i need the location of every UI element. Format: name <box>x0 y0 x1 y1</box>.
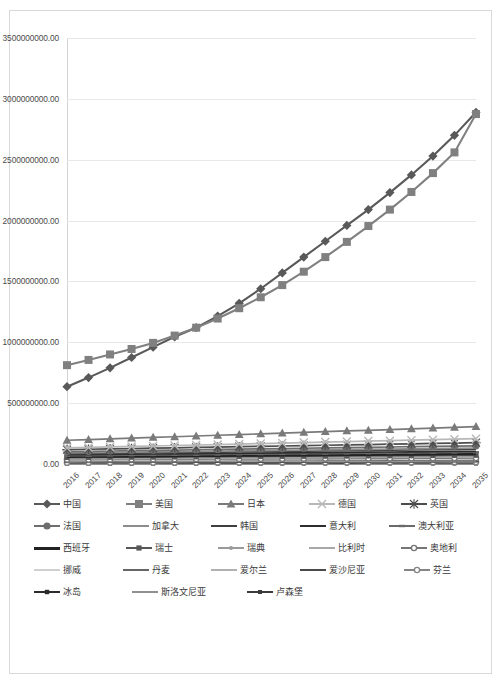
legend-swatch-icon <box>401 499 427 509</box>
data-point-marker <box>343 238 351 246</box>
legend-swatch-icon <box>401 543 427 553</box>
x-tick-label: 2026 <box>276 470 296 490</box>
legend-swatch-icon <box>218 499 244 509</box>
legend-swatch-icon <box>126 543 152 553</box>
data-point-marker <box>63 361 71 369</box>
legend-row: 法国加拿大韩国意大利澳大利亚 <box>10 515 493 537</box>
legend-swatch-icon <box>34 543 60 553</box>
data-point-marker <box>415 567 420 572</box>
data-point-marker <box>407 188 415 196</box>
legend-item-2[interactable]: 日本 <box>218 499 310 509</box>
y-tick-label: 2500000000.00 <box>3 155 59 165</box>
data-point-marker <box>192 324 200 332</box>
legend-item-7[interactable]: 韩国 <box>211 521 300 531</box>
legend-label: 法国 <box>63 522 81 531</box>
data-point-marker <box>105 363 114 372</box>
series-1 <box>63 110 480 369</box>
legend-item-3[interactable]: 德国 <box>309 499 401 509</box>
y-tick-label: 0.00 <box>43 459 59 469</box>
legend-item-22[interactable]: 卢森堡 <box>247 587 345 597</box>
series-layer <box>67 38 476 464</box>
data-point-marker <box>170 443 180 453</box>
legend-label: 芬兰 <box>433 566 451 575</box>
legend-item-15[interactable]: 挪威 <box>34 565 123 575</box>
data-point-marker <box>84 373 93 382</box>
legend-swatch-icon <box>247 587 273 597</box>
legend-item-19[interactable]: 芬兰 <box>404 565 493 575</box>
legend-item-10[interactable]: 西班牙 <box>34 543 126 553</box>
legend-item-13[interactable]: 比利时 <box>309 543 401 553</box>
legend-item-11[interactable]: 瑞士 <box>126 543 218 553</box>
y-tick-label: 1500000000.00 <box>3 276 59 286</box>
y-tick-label: 500000000.00 <box>7 398 59 408</box>
legend-item-12[interactable]: 瑞典 <box>218 543 310 553</box>
legend-item-9[interactable]: 澳大利亚 <box>389 521 493 531</box>
data-point-marker <box>43 522 50 529</box>
data-point-marker <box>105 444 115 454</box>
data-point-marker <box>321 253 329 261</box>
legend-item-1[interactable]: 美国 <box>126 499 218 509</box>
series-line <box>67 114 476 365</box>
legend-item-18[interactable]: 爱沙尼亚 <box>300 565 404 575</box>
legend-label: 卢森堡 <box>276 588 303 597</box>
legend-label: 斯洛文尼亚 <box>161 588 206 597</box>
data-point-marker <box>171 332 179 340</box>
data-point-marker <box>472 110 480 118</box>
line-chart: 3500000000.003000000000.002500000000.002… <box>10 11 493 481</box>
legend-swatch-icon <box>211 521 237 531</box>
data-point-marker <box>127 444 137 454</box>
x-tick-label: 2025 <box>255 470 275 490</box>
series-line <box>67 427 476 441</box>
legend-swatch-icon <box>34 587 60 597</box>
legend-item-8[interactable]: 意大利 <box>300 521 389 531</box>
legend-label: 加拿大 <box>152 522 179 531</box>
legend-swatch-icon <box>34 499 60 509</box>
legend-label: 奥地利 <box>430 544 457 553</box>
legend-item-5[interactable]: 法国 <box>34 521 123 531</box>
legend-row: 挪威丹麦爱尔兰爱沙尼亚芬兰 <box>10 559 493 581</box>
data-point-marker <box>399 525 405 527</box>
legend-item-21[interactable]: 斯洛文尼亚 <box>132 587 247 597</box>
data-point-marker <box>62 382 71 391</box>
legend-label: 爱沙尼亚 <box>329 566 365 575</box>
data-point-marker <box>364 222 372 230</box>
data-point-marker <box>42 499 51 508</box>
legend-item-14[interactable]: 奥地利 <box>401 543 493 553</box>
legend-swatch-icon <box>300 521 326 531</box>
x-tick-label: 2018 <box>104 470 124 490</box>
legend-row: 西班牙瑞士瑞典比利时奥地利 <box>10 537 493 559</box>
legend-label: 比利时 <box>338 544 365 553</box>
x-tick-label: 2029 <box>341 470 361 490</box>
x-tick-label: 2028 <box>319 470 339 490</box>
chart-legend: 中国美国日本德国英国法国加拿大韩国意大利澳大利亚西班牙瑞士瑞典比利时奥地利挪威丹… <box>10 493 493 673</box>
data-point-marker <box>62 445 72 455</box>
series-0 <box>62 108 480 392</box>
legend-swatch-icon <box>211 565 237 575</box>
legend-item-20[interactable]: 冰岛 <box>34 587 132 597</box>
data-point-marker <box>278 281 286 289</box>
x-tick-label: 2033 <box>427 470 447 490</box>
legend-item-17[interactable]: 爱尔兰 <box>211 565 300 575</box>
legend-swatch-icon <box>132 587 158 597</box>
x-tick-label: 2030 <box>362 470 382 490</box>
data-point-marker <box>318 500 326 508</box>
legend-item-6[interactable]: 加拿大 <box>123 521 212 531</box>
legend-label: 瑞士 <box>155 544 173 553</box>
data-point-marker <box>45 590 49 594</box>
legend-swatch-icon <box>126 499 152 509</box>
legend-item-4[interactable]: 英国 <box>401 499 493 509</box>
x-tick-label: 2032 <box>405 470 425 490</box>
data-point-marker <box>257 293 265 301</box>
legend-row: 中国美国日本德国英国 <box>10 493 493 515</box>
x-tick-label: 2024 <box>233 470 253 490</box>
data-point-marker <box>214 315 222 323</box>
legend-item-16[interactable]: 丹麦 <box>123 565 212 575</box>
data-point-marker <box>143 591 148 593</box>
legend-label: 日本 <box>247 500 265 509</box>
legend-item-0[interactable]: 中国 <box>34 499 126 509</box>
data-point-marker <box>148 443 158 453</box>
x-tick-label: 2019 <box>126 470 146 490</box>
legend-swatch-icon <box>34 565 60 575</box>
legend-swatch-icon <box>404 565 430 575</box>
legend-label: 意大利 <box>329 522 356 531</box>
